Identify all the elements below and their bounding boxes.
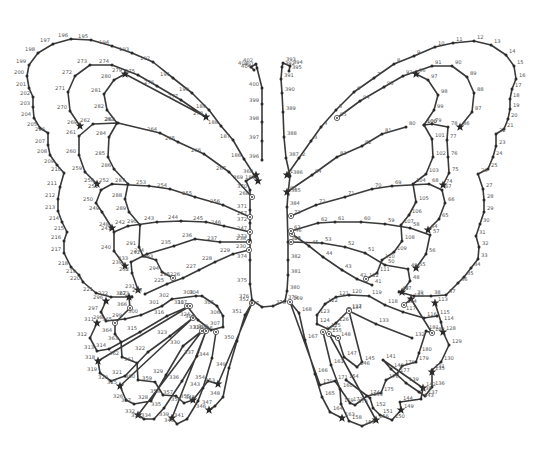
dot-marker [222,396,225,399]
point-number-label: 23 [499,139,506,145]
point-number-label: 109 [397,245,407,251]
point-number-label: 103 [429,167,439,173]
dot-marker [281,92,284,95]
point-number-label: 150 [395,413,405,419]
dot-marker [320,126,323,129]
dot-marker [124,318,127,321]
point-number-label: 388 [287,130,297,136]
point-number-label: 182 [435,326,445,332]
dot-marker [26,75,29,78]
dot-marker [391,419,394,422]
dot-marker [163,407,166,410]
dot-marker [136,362,139,365]
dot-marker [434,46,437,49]
dot-marker [415,361,418,364]
point-number-label: 86 [463,120,470,126]
point-number-label: 24 [496,150,503,156]
dot-marker [156,85,159,88]
point-number-label: 19 [513,102,520,108]
dot-marker [408,214,411,217]
point-number-label: 2 [302,151,305,157]
dot-marker [66,231,69,234]
dot-marker [189,305,191,307]
point-number-label: 36 [461,276,468,282]
point-number-label: 126 [339,316,349,322]
point-number-label: 277 [168,93,178,99]
dot-marker [214,405,217,408]
dot-marker [316,323,319,326]
point-number-label: 176 [389,373,399,379]
dot-marker [341,269,344,272]
dot-marker [407,268,410,271]
dot-marker [495,145,498,148]
dot-marker [107,156,110,159]
dot-marker [507,118,510,121]
dot-marker [492,156,495,159]
dot-marker [365,278,367,280]
point-number-label: 84 [315,168,322,174]
point-number-label: 107 [404,218,414,224]
point-number-label: 187 [220,133,230,139]
point-number-label: 364 [102,327,113,333]
point-number-label: 91 [435,59,442,65]
dot-marker [329,411,332,414]
point-number-label: 267 [216,165,226,171]
dot-marker [405,126,408,129]
dot-marker [120,341,123,344]
point-number-label: 201 [16,81,26,87]
dot-marker [37,52,40,55]
dot-marker [505,54,508,57]
dot-marker [334,380,337,383]
point-number-label: 404 [241,63,252,69]
point-number-label: 76 [451,150,458,156]
point-number-label: 237 [207,235,217,241]
point-number-label: 56 [429,247,436,253]
dot-marker [381,259,384,262]
point-number-label: 329 [153,368,163,374]
dot-marker [412,183,415,186]
dot-marker [181,380,184,383]
point-number-label: 369 [233,174,243,180]
point-number-label: 221 [83,286,93,292]
dot-marker [391,185,394,188]
dot-marker [113,250,116,253]
point-number-label: 390 [285,86,295,92]
dot-marker [169,188,172,191]
point-labels: 1234567891011121314151617181920212223242… [14,32,526,425]
point-number-label: 206 [35,126,45,132]
point-number-label: 179 [419,355,429,361]
dot-marker [285,157,288,160]
point-number-label: 279 [112,67,122,73]
dot-marker [236,340,239,343]
point-number-label: 262 [80,117,90,123]
dot-marker [261,121,264,124]
point-number-label: 362 [109,350,119,356]
point-number-label: 330 [170,339,180,345]
point-number-label: 100 [427,118,437,124]
dot-marker [281,66,284,69]
point-number-label: 312 [77,331,87,337]
dot-marker [315,204,318,207]
dot-marker [368,295,371,298]
point-number-label: 338 [193,324,203,330]
point-number-label: 117 [406,305,416,311]
point-number-label: 379 [288,294,298,300]
dot-marker [344,246,347,249]
point-number-label: 64 [431,223,438,229]
dot-marker [111,183,114,186]
point-number-label: 21 [507,122,514,128]
point-number-label: 296 [93,294,103,300]
dot-marker [114,322,116,324]
dot-marker [255,63,258,66]
point-number-label: 142 [426,381,436,387]
dot-marker [425,173,428,176]
dot-marker [203,153,206,156]
point-number-label: 313 [84,344,94,350]
point-number-label: 114 [444,315,455,321]
point-number-label: 368 [243,168,253,174]
point-number-label: 96 [419,67,426,73]
point-number-label: 286 [101,162,111,168]
point-number-label: 66 [448,196,455,202]
point-number-label: 174 [370,389,381,395]
dot-marker [182,277,185,280]
